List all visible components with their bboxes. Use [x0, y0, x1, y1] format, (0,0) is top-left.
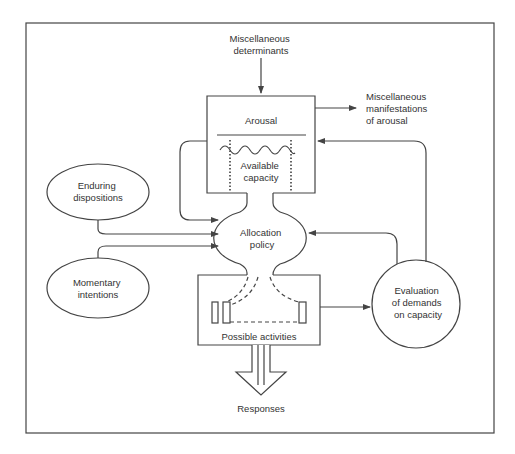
- neck-lower-right: [273, 264, 280, 275]
- arrow-evaluation-to-arousal: [318, 141, 426, 262]
- activity-slot-2: [223, 302, 230, 323]
- allocation-dashed-2: [230, 277, 258, 305]
- activity-slot-1: [212, 302, 218, 323]
- allocation-policy-label: Allocation policy: [240, 227, 284, 250]
- arrow-intentions-to-allocation: [98, 246, 218, 258]
- momentary-intentions-node: [47, 258, 149, 318]
- arousal-label: Arousal: [245, 115, 277, 126]
- capacity-model-diagram: Miscellaneous determinants Arousal Avail…: [0, 0, 515, 454]
- neck-upper-right: [273, 193, 280, 212]
- possible-activities-label: Possible activities: [222, 331, 297, 342]
- capacity-wave: [220, 146, 295, 154]
- enduring-dispositions-label: Enduring dispositions: [73, 180, 123, 203]
- available-capacity-label: Available capacity: [240, 160, 281, 183]
- misc-determinants-label: Miscellaneous determinants: [230, 33, 293, 56]
- misc-manifestations-label: Miscellaneous manifestations of arousal: [366, 91, 430, 126]
- allocation-policy-shape: [214, 212, 307, 264]
- arrow-arousal-to-allocation: [180, 141, 218, 220]
- arrow-evaluation-to-allocation: [309, 233, 397, 264]
- momentary-intentions-label: Momentary intentions: [73, 277, 123, 300]
- responses-label: Responses: [237, 403, 285, 414]
- activity-slot-3: [299, 302, 306, 323]
- arrow-dispositions-to-allocation: [98, 220, 218, 234]
- neck-lower-left: [240, 264, 247, 275]
- evaluation-label: Evaluation of demands on capacity: [392, 285, 444, 320]
- neck-upper-left: [240, 193, 247, 212]
- allocation-dashed-3: [270, 277, 299, 302]
- allocation-dashed-1: [226, 277, 248, 302]
- responses-arrow: [236, 345, 286, 395]
